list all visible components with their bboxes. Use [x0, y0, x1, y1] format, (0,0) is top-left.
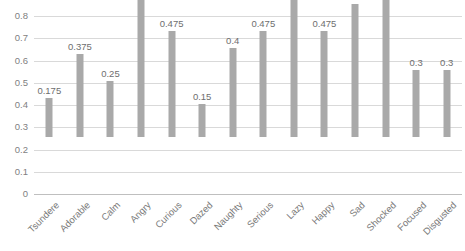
bar-slot: 0.675 [279, 0, 310, 137]
bars-layer: 0.1750.3750.250.6750.4750.150.40.4750.67… [34, 0, 462, 194]
bar-value-label: 0.6 [348, 0, 361, 2]
x-category-label: Serious [245, 200, 275, 230]
y-tick-label: 0.4 [15, 100, 28, 110]
bar[interactable] [321, 31, 328, 137]
bar[interactable] [76, 54, 83, 137]
bar-slot: 0.3 [401, 0, 432, 137]
y-tick-label: 0.5 [15, 78, 28, 88]
bar[interactable] [168, 31, 175, 137]
bar-slot: 0.175 [34, 0, 65, 137]
bar[interactable] [46, 98, 53, 137]
bar-slot: 0.675 [126, 0, 157, 137]
bar[interactable] [199, 104, 206, 137]
bar-slot: 0.475 [156, 0, 187, 137]
y-tick-label: 0 [23, 189, 28, 199]
x-category-label: Curious [153, 200, 183, 230]
bar-value-label: 0.475 [313, 19, 337, 29]
bar[interactable] [443, 70, 450, 137]
bar[interactable] [137, 0, 144, 137]
x-category-label: Sad [348, 200, 367, 219]
x-category-label: Adorable [58, 200, 92, 234]
bar-value-label: 0.375 [68, 42, 92, 52]
bar-value-label: 0.3 [410, 58, 423, 68]
y-tick-label: 0.7 [15, 34, 28, 44]
x-category-label: Lazy [285, 200, 306, 221]
bar-slot: 0.4 [217, 0, 248, 137]
bar[interactable] [290, 0, 297, 137]
bar-value-label: 0.475 [160, 19, 184, 29]
x-category-label: Happy [310, 200, 336, 226]
bar-value-label: 0.3 [440, 58, 453, 68]
bar-slot: 0.475 [309, 0, 340, 137]
bar[interactable] [413, 70, 420, 137]
bar-slot: 0.25 [95, 0, 126, 137]
bar-slot: 0.375 [65, 0, 96, 137]
x-category-label: Shocked [364, 200, 397, 233]
x-category-label: Angry [128, 200, 153, 225]
y-tick-label: 0.8 [15, 11, 28, 21]
bar[interactable] [107, 81, 114, 137]
x-category-label: Dazed [188, 200, 214, 226]
x-axis-category-labels: TsundereAdorableCalmAngryCuriousDazedNau… [34, 194, 462, 251]
bar-value-label: 0.25 [101, 69, 120, 79]
bar[interactable] [351, 4, 358, 138]
bar-value-label: 0.4 [226, 36, 239, 46]
y-axis-tick-labels: 0.80.70.60.50.40.30.20.10 [0, 16, 32, 194]
bar-slot: 0.6 [340, 0, 371, 137]
bar-slot: 0.75 [370, 0, 401, 137]
bar-value-label: 0.475 [251, 19, 275, 29]
x-category-label: Tsundere [27, 200, 62, 235]
y-tick-label: 0.6 [15, 56, 28, 66]
x-category-label: Calm [100, 200, 123, 223]
bar-chart: 0.80.70.60.50.40.30.20.10 0.1750.3750.25… [0, 0, 465, 251]
y-tick-label: 0.1 [15, 167, 28, 177]
bar-slot: 0.3 [431, 0, 462, 137]
bar[interactable] [382, 0, 389, 137]
bar-value-label: 0.175 [37, 86, 61, 96]
y-tick-label: 0.2 [15, 145, 28, 155]
bar[interactable] [229, 48, 236, 137]
bar[interactable] [260, 31, 267, 137]
bar-slot: 0.15 [187, 0, 218, 137]
bar-value-label: 0.15 [193, 92, 212, 102]
y-tick-label: 0.3 [15, 123, 28, 133]
bar-slot: 0.475 [248, 0, 279, 137]
x-category-label: Naughty [213, 200, 245, 232]
